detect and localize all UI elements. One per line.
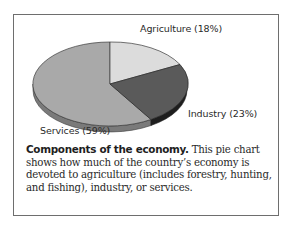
chart-caption: Components of the economy. This pie char… [26,143,276,194]
label-services: Services (59%) [40,125,110,136]
label-industry: Industry (23%) [188,108,257,119]
label-agriculture: Agriculture (18%) [140,23,222,34]
pie-chart [0,0,295,242]
caption-title: Components of the economy. [26,143,189,155]
